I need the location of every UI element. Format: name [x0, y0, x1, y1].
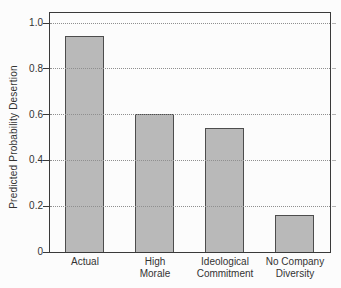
- y-tick-mark-0.4: [43, 160, 49, 161]
- gridline-0.6: [50, 114, 330, 115]
- right-tick-mark-0.8: [332, 68, 337, 69]
- bar-ideological-commitment: [205, 128, 244, 252]
- right-tick-mark-0.2: [332, 206, 337, 207]
- y-tick-mark-0.8: [43, 68, 49, 69]
- y-tick-label-0: 0: [10, 247, 43, 257]
- x-category-label-high-morale: HighMorale: [120, 256, 190, 279]
- x-category-label-no-company-diversity: No CompanyDiversity: [260, 256, 330, 279]
- x-category-label-line: Actual: [50, 256, 120, 268]
- gridline-0.4: [50, 160, 330, 161]
- x-category-label-line: Commitment: [190, 268, 260, 280]
- y-tick-mark-1.0: [43, 23, 49, 24]
- x-category-label-line: High: [120, 256, 190, 268]
- x-category-label-ideological-commitment: IdeologicalCommitment: [190, 256, 260, 279]
- y-tick-label-0.6: 0.6: [10, 110, 43, 120]
- y-tick-label-0.8: 0.8: [10, 64, 43, 74]
- bar-no-company-diversity: [275, 215, 314, 252]
- gridline-0.2: [50, 206, 330, 207]
- y-tick-mark-0.2: [43, 206, 49, 207]
- gridline-1: [50, 23, 330, 24]
- y-tick-label-1.0: 1.0: [10, 18, 43, 28]
- x-category-label-actual: Actual: [50, 256, 120, 268]
- bar-chart-figure: Predicted Probability Desertion 00.20.40…: [0, 0, 341, 288]
- x-category-label-line: No Company: [260, 256, 330, 268]
- x-category-label-line: Diversity: [260, 268, 330, 280]
- bar-high-morale: [135, 114, 174, 251]
- plot-area: [49, 12, 331, 253]
- y-tick-mark-0: [43, 252, 49, 253]
- gridline-0.8: [50, 68, 330, 69]
- right-tick-mark-0.4: [332, 160, 337, 161]
- x-category-label-line: Morale: [120, 268, 190, 280]
- y-tick-mark-0.6: [43, 114, 49, 115]
- y-axis-title: Predicted Probability Desertion: [8, 65, 19, 209]
- x-category-label-line: Ideological: [190, 256, 260, 268]
- right-tick-mark-1.0: [332, 23, 337, 24]
- y-tick-label-0.4: 0.4: [10, 155, 43, 165]
- right-tick-mark-0.6: [332, 114, 337, 115]
- y-tick-label-0.2: 0.2: [10, 201, 43, 211]
